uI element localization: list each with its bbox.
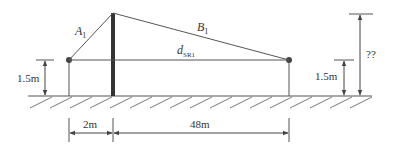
left-height-dimension: 1.5m — [17, 60, 54, 95]
ground-hatching — [30, 97, 372, 108]
lightning-rod-pole — [111, 13, 115, 96]
label-unknown-height: ?? — [366, 48, 376, 60]
label-dsr1: dSR1 — [177, 43, 196, 59]
label-right-height: 1.5m — [315, 70, 338, 82]
label-b1: B1 — [197, 20, 208, 36]
label-a1: A1 — [74, 24, 86, 40]
label-dist-right: 48m — [190, 118, 210, 130]
right-height-dimension: 1.5m — [315, 60, 354, 95]
label-dist-left: 2m — [83, 118, 98, 130]
label-left-height: 1.5m — [17, 72, 40, 84]
lightning-protection-diagram: A1 B1 dSR1 1.5m 1.5m ?? 2m 48m — [0, 0, 395, 148]
bottom-dimensions: 2m 48m — [69, 118, 289, 142]
unknown-height-dimension: ?? — [349, 14, 376, 95]
ground — [28, 96, 372, 108]
